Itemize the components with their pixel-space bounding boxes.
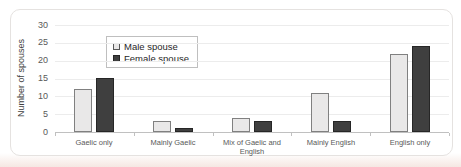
category-label-mainly-english: Mainly English — [298, 138, 364, 147]
y-tick-label-25: 25 — [28, 38, 48, 47]
bar-male-spouse-mix-of-gaelic-and-english — [232, 118, 250, 132]
x-axis-tick — [449, 133, 450, 136]
category-label-english-only: English only — [377, 138, 443, 147]
bar-female-spouse-mix-of-gaelic-and-english — [254, 121, 272, 132]
bar-female-spouse-gaelic-only — [96, 78, 114, 132]
legend-item-male-spouse: Male spouse — [113, 40, 189, 52]
x-axis-tick — [134, 133, 135, 136]
gridline-25 — [55, 43, 449, 44]
legend: Male spouse Female spouse — [106, 36, 198, 68]
y-tick-label-30: 30 — [28, 21, 48, 30]
category-label-gaelic-only: Gaelic only — [61, 138, 127, 147]
x-axis-tick — [370, 133, 371, 136]
bar-female-spouse-mainly-english — [333, 121, 351, 132]
bar-female-spouse-english-only — [412, 46, 430, 132]
bar-chart: Number of spouses Male spouse Female spo… — [0, 0, 461, 167]
x-axis-tick — [291, 133, 292, 136]
bar-male-spouse-english-only — [390, 54, 408, 132]
x-axis-line — [55, 132, 449, 133]
bar-male-spouse-gaelic-only — [74, 89, 92, 132]
category-label-mix-of-gaelic-and-english: Mix of Gaelic and English — [219, 138, 285, 157]
y-tick-label-20: 20 — [28, 56, 48, 65]
screenshot-root: Number of spouses Male spouse Female spo… — [0, 0, 461, 167]
x-axis-tick — [55, 133, 56, 136]
x-axis-tick — [213, 133, 214, 136]
y-tick-label-10: 10 — [28, 92, 48, 101]
bar-male-spouse-mainly-gaelic — [153, 121, 171, 132]
y-tick-label-15: 15 — [28, 74, 48, 83]
legend-item-female-spouse: Female spouse — [113, 52, 189, 64]
bar-male-spouse-mainly-english — [311, 93, 329, 132]
y-tick-label-0: 0 — [28, 128, 48, 137]
gridline-30 — [55, 25, 449, 26]
y-tick-label-5: 5 — [28, 110, 48, 119]
category-label-mainly-gaelic: Mainly Gaelic — [140, 138, 206, 147]
y-axis-title: Number of spouses — [16, 39, 26, 117]
